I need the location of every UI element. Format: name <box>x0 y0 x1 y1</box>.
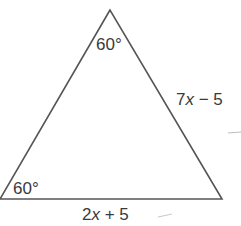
bottom-side-var: x <box>91 205 100 224</box>
bottom-left-angle-label: 60° <box>13 180 39 197</box>
right-side-label: 7x − 5 <box>176 91 223 108</box>
right-side-var: x <box>185 90 194 109</box>
right-side-rest: − 5 <box>194 90 223 109</box>
triangle-diagram: 60° 60° 7x − 5 2x + 5 <box>0 0 241 226</box>
bottom-side-label: 2x + 5 <box>82 206 129 223</box>
bottom-side-rest: + 5 <box>100 205 129 224</box>
apex-angle-label: 60° <box>96 36 122 53</box>
stray-mark <box>228 132 241 133</box>
stray-mark <box>158 214 172 217</box>
